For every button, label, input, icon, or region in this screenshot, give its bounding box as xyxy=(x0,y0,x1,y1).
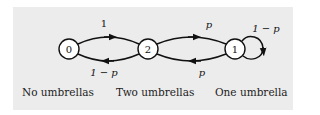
edge-label-0-to-2: 1 xyxy=(101,18,107,29)
edge-label-1-to-2: p xyxy=(199,67,206,78)
node-1: 1 xyxy=(225,39,245,59)
caption-no-umbrellas: No umbrellas xyxy=(22,86,94,98)
node-2-label: 2 xyxy=(145,44,151,55)
caption-two-umbrellas: Two umbrellas xyxy=(116,86,194,98)
edge-label-2-to-1: p xyxy=(206,19,213,30)
edge-label-1-self: 1 − p xyxy=(252,23,280,34)
node-1-label: 1 xyxy=(232,44,238,55)
edge-1-self-loop: 1 − p xyxy=(242,23,280,59)
caption-one-umbrella: One umbrella xyxy=(215,86,288,98)
edge-1-to-2: p xyxy=(157,54,226,78)
node-0: 0 xyxy=(59,39,79,59)
edge-2-to-0: 1 − p xyxy=(78,54,139,78)
node-2: 2 xyxy=(138,39,158,59)
node-0-label: 0 xyxy=(66,44,72,55)
edge-0-to-2: 1 xyxy=(78,18,139,44)
edge-label-2-to-0: 1 − p xyxy=(90,67,118,78)
edge-2-to-1: p xyxy=(157,19,226,44)
